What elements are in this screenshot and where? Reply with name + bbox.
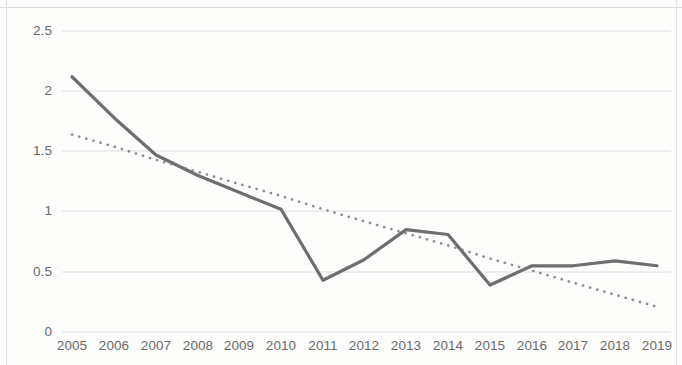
x-tick-label: 2016 xyxy=(517,338,547,353)
x-tick-label: 2009 xyxy=(224,338,254,353)
y-tick-label: 0 xyxy=(8,325,52,339)
x-tick-label: 2005 xyxy=(57,338,87,353)
x-tick-label: 2013 xyxy=(391,338,421,353)
y-tick: 2 xyxy=(8,84,52,98)
data-line-path xyxy=(72,77,657,285)
gridlines-group xyxy=(62,31,671,332)
x-tick-label: 2010 xyxy=(266,338,296,353)
x-tick-label: 2014 xyxy=(433,338,463,353)
y-tick-label: 1 xyxy=(8,204,52,218)
y-tick: 1 xyxy=(8,204,52,218)
chart-figure: 2.521.510.50 200520062007200820092010201… xyxy=(0,0,682,365)
y-tick: 2.5 xyxy=(8,24,52,38)
x-tick-label: 2007 xyxy=(141,338,171,353)
y-tick: 0.5 xyxy=(8,265,52,279)
x-tick-label: 2012 xyxy=(349,338,379,353)
x-tick-label: 2019 xyxy=(642,338,672,353)
y-tick-label: 0.5 xyxy=(8,265,52,279)
x-tick-label: 2006 xyxy=(99,338,129,353)
plot-area: 2.521.510.50 200520062007200820092010201… xyxy=(0,0,682,365)
trendline-path xyxy=(72,135,657,307)
x-tick-label: 2008 xyxy=(183,338,213,353)
x-tick-label: 2011 xyxy=(308,338,337,353)
x-tick-label: 2017 xyxy=(558,338,588,353)
x-tick-label: 2018 xyxy=(600,338,630,353)
y-tick-label: 1.5 xyxy=(8,144,52,158)
y-tick: 1.5 xyxy=(8,144,52,158)
chart-canvas xyxy=(0,0,682,365)
x-tick-label: 2015 xyxy=(475,338,505,353)
y-tick-label: 2 xyxy=(8,84,52,98)
y-tick-label: 2.5 xyxy=(8,24,52,38)
y-tick: 0 xyxy=(8,325,52,339)
